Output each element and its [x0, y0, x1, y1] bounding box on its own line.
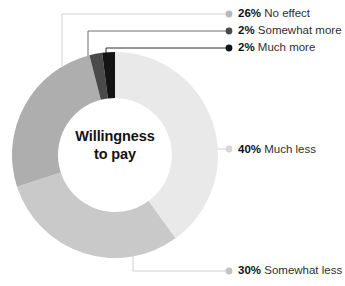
- legend-label-much-more: Much more: [258, 41, 316, 53]
- legend-dot-somewhat-less: [226, 268, 233, 275]
- donut-segment-no-effect[interactable]: [12, 55, 101, 187]
- legend-dot-much-more: [226, 45, 233, 52]
- legend-dot-much-less: [226, 146, 233, 153]
- legend-dot-somewhat-more: [226, 28, 233, 35]
- donut-segment-somewhat-less[interactable]: [17, 173, 176, 258]
- donut-center-label-line1: Willingness: [58, 128, 172, 146]
- legend-item-somewhat-more[interactable]: 2% Somewhat more: [238, 25, 342, 37]
- legend-item-much-less[interactable]: 40% Much less: [238, 144, 316, 156]
- donut-center-label-line2: to pay: [58, 146, 172, 164]
- legend-label-somewhat-more: Somewhat more: [258, 24, 342, 36]
- donut-chart: Willingness to pay 26% No effect 2% Some…: [0, 0, 345, 286]
- legend-item-somewhat-less[interactable]: 30% Somewhat less: [238, 265, 342, 277]
- legend-value-no-effect: 26%: [238, 7, 261, 19]
- legend-value-somewhat-more: 2%: [238, 24, 255, 36]
- legend-value-somewhat-less: 30%: [238, 264, 261, 276]
- legend-item-much-more[interactable]: 2% Much more: [238, 42, 315, 54]
- legend-label-much-less: Much less: [264, 143, 316, 155]
- legend-value-much-more: 2%: [238, 41, 255, 53]
- legend-label-no-effect: No effect: [264, 7, 310, 19]
- legend-dots: [226, 11, 233, 275]
- leader-line-somewhat-less: [133, 252, 228, 271]
- legend-label-somewhat-less: Somewhat less: [264, 264, 342, 276]
- donut-center-label: Willingness to pay: [58, 128, 172, 163]
- legend-item-no-effect[interactable]: 26% No effect: [238, 8, 310, 20]
- legend-value-much-less: 40%: [238, 143, 261, 155]
- legend-dot-no-effect: [226, 11, 233, 18]
